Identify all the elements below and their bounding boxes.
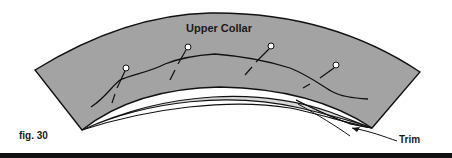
trim-arrow [352, 127, 397, 141]
upper-collar-label: Upper Collar [186, 22, 252, 34]
under-collar-edge [82, 104, 372, 130]
bottom-rule [0, 153, 452, 158]
trim-label: Trim [399, 134, 420, 145]
figure-caption: fig. 30 [19, 130, 48, 141]
